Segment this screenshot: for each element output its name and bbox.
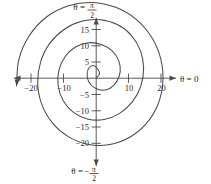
axis-label-theta-neg-pi-over-2: θ = − π 2	[71, 165, 98, 184]
theta-bottom-denominator: 2	[92, 174, 96, 183]
y-tick-label-pos10: 10	[81, 41, 90, 51]
theta-bottom-numerator: π	[92, 165, 96, 174]
equals-bottom: =	[76, 166, 83, 176]
y-tick-label-pos15: 15	[81, 25, 90, 35]
equals-right: =	[184, 74, 194, 84]
y-tick-label-neg20: −20	[76, 138, 89, 148]
svg-text:θ = 0: θ = 0	[180, 74, 199, 84]
svg-text:θ =: θ =	[73, 2, 85, 12]
svg-text:θ =: θ =	[71, 166, 83, 176]
theta-bottom-sign: −	[84, 166, 89, 176]
x-tick-label-pos10: 10	[125, 83, 134, 93]
y-tick-label-pos5: 5	[85, 57, 89, 67]
plot-canvas: −20 −10 10 20 15 10 5 −5 −10 −15 −20 θ =…	[0, 0, 211, 184]
y-tick-label-neg10: −10	[76, 106, 89, 116]
y-tick-label-neg5: −5	[80, 90, 89, 100]
equals-top: =	[78, 2, 85, 12]
spiral-curve	[17, 2, 163, 145]
axis-label-theta-pi-over-2: θ = π 2	[73, 1, 96, 20]
y-tick-label-neg15: −15	[76, 122, 89, 132]
polar-spiral-figure: −20 −10 10 20 15 10 5 −5 −10 −15 −20 θ =…	[0, 0, 211, 184]
theta-zero-value: 0	[194, 74, 199, 84]
axis-label-theta-zero: θ = 0	[180, 74, 199, 84]
x-tick-label-neg10: −10	[57, 83, 70, 93]
x-axis-arrow-right	[170, 76, 177, 81]
x-tick-label-neg20: −20	[24, 83, 37, 93]
x-tick-label-pos20: 20	[157, 83, 166, 93]
y-axis	[94, 18, 99, 166]
theta-top-numerator: π	[90, 1, 94, 10]
theta-top-denominator: 2	[90, 11, 94, 20]
